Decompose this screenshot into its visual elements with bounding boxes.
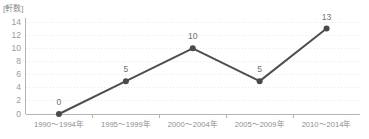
x-axis-tick-label: 2000〜2004年 — [168, 120, 218, 129]
y-axis-tick-label: 8 — [1, 57, 21, 66]
data-series-line — [59, 29, 327, 114]
data-point-value-label: 10 — [188, 32, 197, 41]
x-axis-tick-label: 2010〜2014年 — [302, 120, 352, 129]
data-point-value-label: 5 — [123, 65, 128, 74]
y-axis-tick-label: 12 — [1, 31, 21, 40]
data-point-value-label: 0 — [57, 98, 62, 107]
x-axis-tick-label: 1990〜1994年 — [34, 120, 84, 129]
y-axis-tick-label: 2 — [1, 96, 21, 105]
x-axis-tick-marks — [92, 114, 293, 118]
plot-area — [0, 0, 369, 139]
x-axis-tick-label: 2005〜2009年 — [235, 120, 285, 129]
data-point-value-label: 5 — [257, 65, 262, 74]
y-axis-tick-label: 0 — [1, 110, 21, 119]
y-axis-tick-label: 10 — [1, 44, 21, 53]
line-chart: [軒数] 14121086420 1990〜1994年1995〜1999年200… — [0, 0, 369, 139]
x-axis-tick-label: 1995〜1999年 — [101, 120, 151, 129]
y-axis-tick-label: 6 — [1, 70, 21, 79]
y-axis-tick-label: 4 — [1, 83, 21, 92]
data-point-value-label: 13 — [322, 13, 331, 22]
y-axis-tick-label: 14 — [1, 18, 21, 27]
